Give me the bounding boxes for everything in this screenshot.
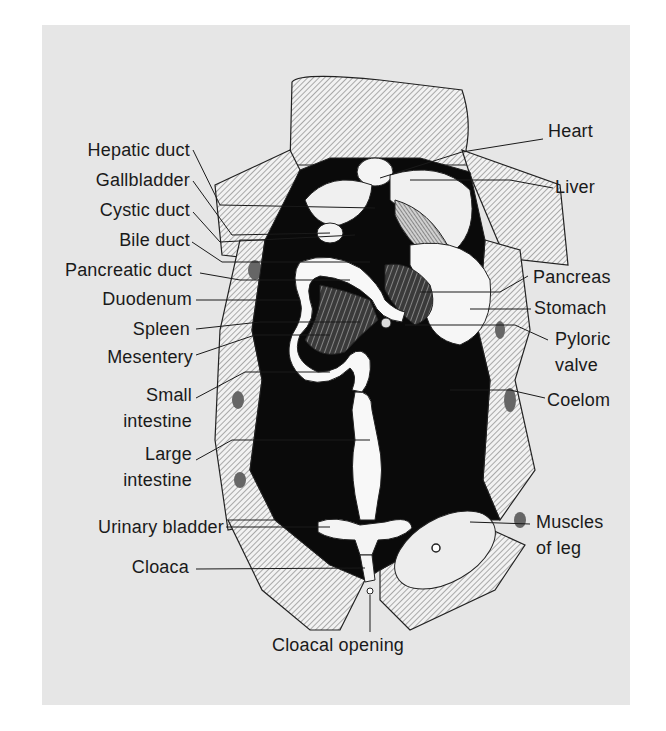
label-pancreas: Pancreas — [533, 266, 611, 288]
label-large-intestine: Large intestine — [123, 443, 192, 491]
label-small-intestine-line1: Small — [123, 384, 192, 406]
label-urinary-bladder: Urinary bladder — [98, 516, 224, 538]
label-large-intestine-line2: intestine — [123, 469, 192, 491]
label-heart: Heart — [548, 120, 593, 142]
label-small-intestine-line2: intestine — [123, 410, 192, 432]
label-large-intestine-line1: Large — [123, 443, 192, 465]
label-cloacal-opening: Cloacal opening — [258, 634, 418, 656]
label-muscles-of-leg: Muscles of leg — [536, 511, 603, 559]
label-duodenum: Duodenum — [102, 288, 192, 310]
label-pancreatic-duct: Pancreatic duct — [65, 259, 192, 281]
label-spleen: Spleen — [133, 318, 190, 340]
label-stomach: Stomach — [534, 297, 606, 319]
label-liver: Liver — [555, 176, 595, 198]
label-gallbladder: Gallbladder — [96, 169, 190, 191]
label-pyloric-valve-line2: valve — [555, 354, 610, 376]
label-cloaca: Cloaca — [132, 556, 189, 578]
label-coelom: Coelom — [547, 389, 610, 411]
label-hepatic-duct: Hepatic duct — [88, 139, 190, 161]
label-bile-duct: Bile duct — [119, 229, 190, 251]
label-mesentery: Mesentery — [107, 346, 193, 368]
label-small-intestine: Small intestine — [123, 384, 192, 432]
label-muscles-of-leg-line2: of leg — [536, 537, 603, 559]
label-pyloric-valve-line1: Pyloric — [555, 328, 610, 350]
label-pyloric-valve: Pyloric valve — [555, 328, 610, 376]
label-cystic-duct: Cystic duct — [100, 199, 190, 221]
label-muscles-of-leg-line1: Muscles — [536, 511, 603, 533]
